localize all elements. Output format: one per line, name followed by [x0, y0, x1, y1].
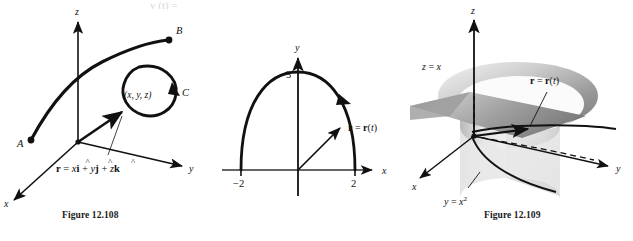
x-axis-label: x	[411, 181, 417, 192]
point-xyz-label: (x, y, z)	[124, 90, 151, 101]
z-axis-label: z	[470, 5, 475, 16]
x-axis: x	[222, 165, 387, 176]
point-a-dot	[28, 137, 35, 144]
z-axis-label: z	[74, 6, 79, 17]
position-vector-arrow	[298, 128, 340, 170]
position-vector-arrow	[78, 112, 122, 142]
point-b-label: B	[176, 25, 183, 36]
space-curve	[31, 40, 180, 140]
y-axis: y	[294, 42, 300, 196]
curve-c-label: C	[182, 87, 190, 98]
plane-label: z = x	[421, 61, 442, 72]
figure-caption-12-108: Figure 12.108	[62, 210, 119, 220]
origin-dot	[75, 139, 80, 144]
y-axis-label: y	[615, 163, 621, 174]
y-axis-label: y	[188, 163, 194, 174]
figure-plate: y (t) = z y x	[0, 0, 633, 241]
position-vector-label: r = r(t)	[530, 75, 559, 87]
origin-dot	[471, 133, 476, 138]
x-axis-label: x	[3, 198, 9, 209]
position-vector-label: r = r(t)	[348, 122, 377, 134]
point-b-dot	[166, 37, 173, 44]
x-axis-label: x	[381, 165, 387, 176]
figure-12-110: z y x	[410, 0, 633, 241]
k-hat-accent: ^	[131, 157, 136, 167]
leader-line	[108, 116, 122, 155]
figure-12-108: z y x	[0, 0, 212, 241]
tick-label-x-right: 2	[351, 178, 356, 189]
z-axis: z	[74, 6, 79, 142]
tick-label-x-left: −2	[233, 178, 244, 189]
cylinder-label: y = x2	[443, 195, 468, 207]
vector-equation: r = xi + yj + zk ^ ^ ^	[56, 157, 136, 174]
y-axis-label: y	[294, 42, 300, 53]
equation-k: k	[114, 163, 120, 174]
x-axis: x	[3, 142, 78, 209]
figure-12-109: x y −2 2 3	[212, 0, 410, 241]
tick-label-y-top: 3	[286, 69, 291, 80]
point-a-label: A	[16, 138, 24, 149]
